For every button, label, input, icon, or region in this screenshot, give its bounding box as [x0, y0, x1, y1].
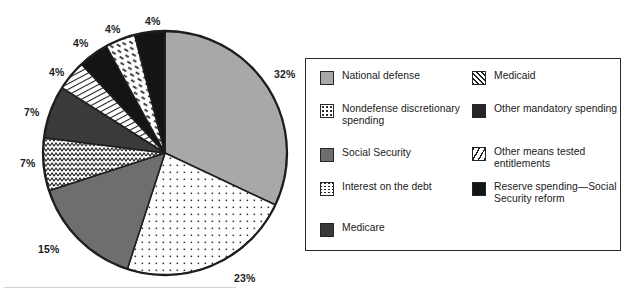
pie-chart-svg — [34, 22, 296, 284]
pie-slice-percent-label: 7% — [24, 106, 39, 118]
legend: National defenseNondefense discretionary… — [305, 58, 621, 251]
legend-item-label: Reserve spending—Social Security reform — [494, 181, 618, 206]
legend-item[interactable]: Other mandatory spending — [472, 103, 617, 118]
pie-slice-percent-label: 4% — [49, 66, 64, 78]
legend-item[interactable]: Medicare — [320, 222, 385, 237]
pie-slice-percent-label: 4% — [73, 37, 88, 49]
legend-swatch-icon — [472, 104, 486, 118]
pie-slice-percent-label: 23% — [234, 272, 255, 284]
page-rule — [4, 287, 236, 288]
legend-swatch-icon — [472, 71, 486, 85]
pie-chart — [34, 22, 296, 284]
legend-item[interactable]: Medicaid — [472, 70, 536, 85]
pie-slice-percent-label: 7% — [20, 157, 35, 169]
legend-swatch-icon — [472, 147, 486, 161]
legend-item[interactable]: Reserve spending—Social Security reform — [472, 181, 618, 206]
legend-item-label: Social Security — [342, 147, 411, 159]
legend-item-label: Interest on the debt — [342, 181, 432, 193]
legend-swatch-icon — [320, 104, 334, 118]
pie-slice-percent-label: 4% — [145, 15, 160, 27]
pie-slice-percent-label: 15% — [38, 243, 59, 255]
legend-item-label: Other means tested entitlements — [494, 146, 618, 171]
legend-item-label: Nondefense discretionary spending — [342, 103, 470, 128]
legend-item-label: Other mandatory spending — [494, 103, 617, 115]
legend-swatch-icon — [320, 71, 334, 85]
legend-item[interactable]: Nondefense discretionary spending — [320, 103, 470, 128]
legend-swatch-icon — [472, 182, 486, 196]
pie-slices — [43, 31, 286, 274]
pie-chart-figure: 32%23%15%7%7%4%4%4%4% National defenseNo… — [0, 0, 641, 300]
legend-swatch-icon — [320, 223, 334, 237]
legend-item-label: Medicaid — [494, 70, 536, 82]
legend-item-label: National defense — [342, 70, 420, 82]
legend-swatch-icon — [320, 182, 334, 196]
pie-slice-percent-label: 32% — [274, 68, 295, 80]
legend-item[interactable]: Social Security — [320, 147, 411, 162]
legend-item-label: Medicare — [342, 222, 385, 234]
legend-item[interactable]: Other means tested entitlements — [472, 146, 618, 171]
pie-slice-percent-label: 4% — [105, 23, 120, 35]
legend-item[interactable]: Interest on the debt — [320, 181, 432, 196]
legend-item[interactable]: National defense — [320, 70, 420, 85]
legend-swatch-icon — [320, 148, 334, 162]
